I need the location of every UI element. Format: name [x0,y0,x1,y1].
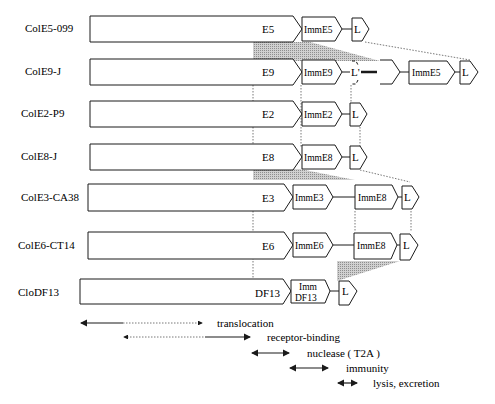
row-cole6: ColE6-CT14 E6 ImmE6 ImmE8 L [18,232,418,260]
gene-label: E9 [262,66,275,78]
gene-label: ImmE6 [295,241,324,251]
gene-label: E6 [262,240,275,252]
gene-label: ImmE5 [412,68,441,78]
gene-label: ImmE5 [304,25,333,35]
row-label: CloDF13 [18,286,59,298]
row-label: ColE5-099 [25,22,74,34]
gene-fragment [380,60,400,84]
row-label: ColE8-J [21,150,58,162]
gene-label: ImmE8 [358,193,387,203]
gene-label: ImmE8 [357,241,386,251]
gene-label: ImmE8 [304,153,333,163]
row-cole2: ColE2-P9 E2 ImmE2 L [21,101,367,127]
homology-shade-e8-e3 [253,169,355,180]
gene-label: DF13 [255,287,281,299]
gene-label: E8 [262,151,275,163]
legend-immunity: immunity [346,362,389,374]
operon-diagram: ColE5-099 E5 ImmE5 L ColE9-J E9 ImmE9 L'… [0,0,495,404]
row-clodf13: CloDF13 DF13 Imm DF13 L [18,279,357,305]
legend-translocation: translocation [217,317,274,329]
row-cole5: ColE5-099 E5 ImmE5 L [25,16,369,42]
legend: translocation receptor-binding nuclease … [81,317,440,389]
gene-label: L [352,108,359,120]
gene-label: L [462,66,469,78]
homology-shade-e5-e9 [253,42,380,61]
row-cole9: ColE9-J E9 ImmE9 L' ImmE5 L [25,59,478,85]
gene-label: E2 [262,108,274,120]
gene-label: L [404,191,411,203]
gene-label: E5 [262,23,275,35]
legend-lysis: lysis, excretion [373,377,440,389]
gene-label: ImmE3 [295,193,324,203]
gene-label: L [403,239,410,251]
row-cole8: ColE8-J E8 ImmE8 L [21,144,367,170]
legend-nuclease: nuclease ( T2A ) [307,347,380,360]
row-label: ColE9-J [25,65,62,77]
gene-label: L [354,23,361,35]
gene-label: E3 [262,192,275,204]
gene-label: L [352,151,359,163]
gene-label: ImmE9 [304,68,333,78]
gene-label: DF13 [295,293,317,303]
row-label: ColE2-P9 [21,107,65,119]
gene-label: L [342,285,349,297]
gene-label: ImmE2 [304,110,333,120]
row-cole3: ColE3-CA38 E3 ImmE3 ImmE8 L [21,184,419,211]
row-label: ColE6-CT14 [18,239,75,251]
gene-label: L' [351,66,360,78]
legend-receptor-binding: receptor-binding [267,331,341,343]
gene-label: Imm [299,282,318,292]
homology-shade-e6-df13 [337,261,400,281]
row-label: ColE3-CA38 [21,191,80,203]
